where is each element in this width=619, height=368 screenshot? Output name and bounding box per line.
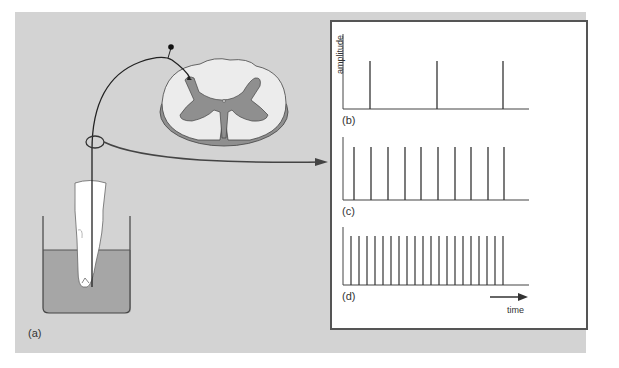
y-axis-label: amplitude	[335, 35, 345, 74]
spike-trains	[332, 22, 586, 328]
label-b: (b)	[342, 114, 355, 126]
label-d: (d)	[342, 290, 355, 302]
x-axis-label: time	[507, 305, 524, 315]
label-a: (a)	[28, 327, 41, 339]
spike-train-c	[343, 137, 529, 200]
spinal-cord-cross-section	[160, 59, 288, 146]
spike-train-b	[332, 34, 529, 109]
spike-train-plot: amplitude (b) (c) (d) time	[330, 20, 588, 330]
label-c: (c)	[342, 205, 355, 217]
spike-train-d	[343, 227, 529, 301]
